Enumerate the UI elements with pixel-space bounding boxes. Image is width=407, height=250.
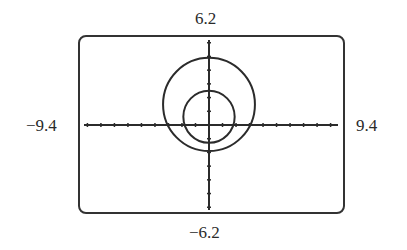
graph-screen bbox=[0, 0, 407, 250]
axes bbox=[84, 40, 338, 210]
